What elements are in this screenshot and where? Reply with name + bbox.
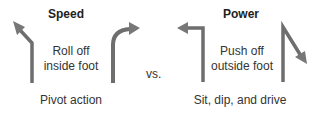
speed-description-line1: Roll off — [52, 44, 89, 59]
diagonal-up-left-arrow-icon — [13, 21, 32, 83]
speed-description-line2: inside foot — [44, 59, 99, 74]
sharp-down-right-arrow-icon — [283, 27, 307, 82]
power-description-line1: Push off — [220, 44, 264, 59]
power-caption: Sit, dip, and drive — [194, 93, 287, 108]
speed-title: Speed — [48, 7, 84, 21]
power-title: Power — [223, 7, 259, 21]
power-description-line2: outside foot — [211, 59, 273, 74]
curved-up-right-arrow-icon — [113, 22, 140, 83]
vs-separator: vs. — [146, 67, 161, 81]
sharp-left-arrow-icon — [177, 22, 203, 82]
speed-caption: Pivot action — [40, 93, 102, 108]
